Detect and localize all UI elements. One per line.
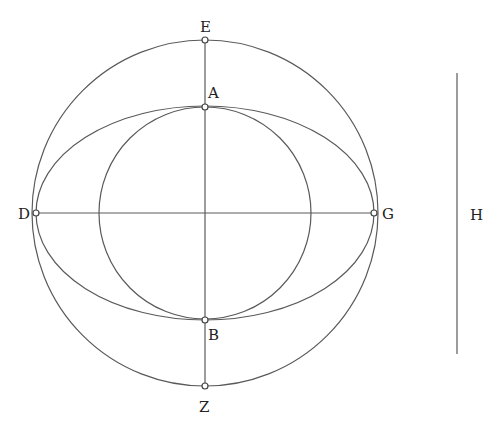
label-H: H (470, 206, 483, 224)
point-B (202, 317, 208, 323)
point-Z (202, 383, 208, 389)
label-D: D (18, 205, 30, 223)
label-A: A (207, 84, 219, 102)
point-D (33, 210, 39, 216)
point-E (202, 37, 208, 43)
point-G (371, 210, 377, 216)
label-Z: Z (199, 398, 209, 416)
point-A (202, 104, 208, 110)
label-G: G (382, 205, 394, 223)
label-E: E (200, 18, 211, 36)
geometry-diagram: E A D G B Z H (0, 0, 494, 422)
label-B: B (208, 326, 219, 344)
